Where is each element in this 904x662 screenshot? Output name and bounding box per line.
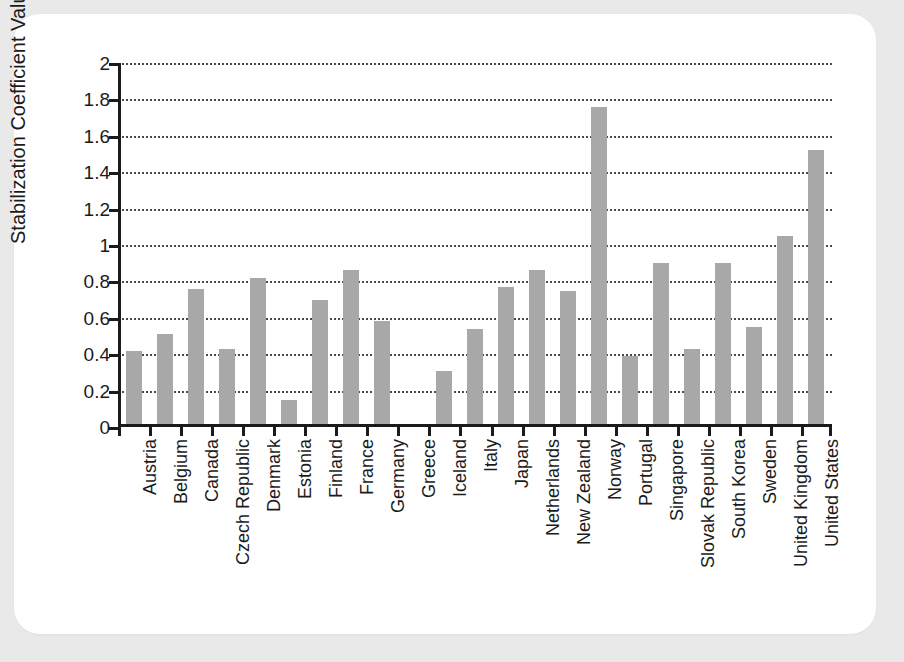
x-axis-labels: AustriaBelgiumCanadaCzech RepublicDenmar…: [118, 433, 832, 623]
x-axis-tick-label: South Korea: [730, 335, 748, 437]
y-axis-tick: [109, 63, 118, 66]
x-axis-tick-label: Finland: [327, 376, 345, 437]
y-axis-tick: [109, 172, 118, 175]
x-axis-tick-label-text: New Zealand: [575, 437, 593, 545]
y-axis-tick: [109, 427, 118, 430]
x-axis-tick-label-text: Slovak Republic: [699, 437, 717, 568]
x-axis-tick-label-text: Sweden: [761, 437, 779, 504]
x-axis-tick-label: Iceland: [451, 377, 469, 437]
x-axis-tick-label: Belgium: [172, 370, 190, 437]
y-axis-tick-label: 1.4: [84, 163, 110, 182]
y-axis-tick: [109, 354, 118, 357]
y-axis-tick-label: 1.2: [84, 199, 110, 218]
x-axis-tick-label-text: Belgium: [172, 437, 190, 504]
y-axis-tick-label: 0: [99, 418, 110, 437]
x-axis-tick-label: Portugal: [637, 368, 655, 437]
x-axis-tick-label: Estonia: [296, 375, 314, 437]
y-axis-tick: [109, 281, 118, 284]
x-axis-tick-label-text: Iceland: [451, 437, 469, 497]
x-axis-tick-label-text: Greece: [420, 437, 438, 498]
x-axis-tick-label-text: Portugal: [637, 437, 655, 506]
x-axis-tick-label-text: Singapore: [668, 437, 686, 521]
chart-card: Stabilization Coefficient Value 00.20.40…: [14, 14, 876, 634]
x-axis-tick-label: Germany: [389, 361, 407, 437]
x-axis-tick-label: France: [358, 379, 376, 437]
x-axis-tick-label-text: Finland: [327, 437, 345, 498]
x-axis-tick-label: Slovak Republic: [699, 306, 717, 437]
x-axis-tick-label: United States: [823, 327, 841, 437]
y-axis-tick-label: 2: [99, 54, 110, 73]
x-axis-tick-label-text: South Korea: [730, 437, 748, 539]
y-axis-tick: [109, 391, 118, 394]
y-axis-tick: [109, 99, 118, 102]
x-axis-tick-label: Japan: [513, 386, 531, 437]
y-axis-tick-label: 0.2: [84, 381, 110, 400]
x-axis-tick-label-text: Canada: [203, 437, 221, 502]
y-axis-tick-label: 0.8: [84, 272, 110, 291]
x-axis-tick-label: New Zealand: [575, 329, 593, 437]
x-axis-tick-label: Singapore: [668, 353, 686, 437]
x-axis-tick-label: Sweden: [761, 370, 779, 437]
x-axis-tick-label-text: France: [358, 437, 376, 495]
y-axis-tick: [109, 318, 118, 321]
x-axis-tick-label: Norway: [606, 374, 624, 437]
y-axis-tick-label: 1: [99, 236, 110, 255]
y-axis-tick: [109, 209, 118, 212]
x-axis-tick-label-text: Czech Republic: [234, 437, 252, 565]
x-axis-tick-label: Canada: [203, 372, 221, 437]
y-axis-tick-label: 0.6: [84, 308, 110, 327]
x-axis-tick-label-text: United States: [823, 437, 841, 547]
x-axis-tick-label: Czech Republic: [234, 309, 252, 437]
x-axis-tick-label-text: Netherlands: [544, 437, 562, 536]
x-axis-tick-label: United Kingdom: [792, 307, 810, 437]
y-axis-tick-label: 1.8: [84, 90, 110, 109]
x-axis-tick-label-text: United Kingdom: [792, 437, 810, 567]
x-axis-tick-label-text: Italy: [482, 437, 500, 472]
x-axis-tick-label: Austria: [141, 379, 159, 437]
x-axis-tick-label-text: Norway: [606, 437, 624, 500]
x-axis-tick-label-text: Japan: [513, 437, 531, 488]
x-axis-tick-label: Italy: [482, 402, 500, 437]
y-axis-tick-label: 1.6: [84, 126, 110, 145]
x-axis-tick-label-text: Germany: [389, 437, 407, 513]
x-axis-tick-label-text: Denmark: [265, 437, 283, 512]
axis-frame: [118, 63, 832, 427]
plot-area: 00.20.40.60.811.21.41.61.82: [118, 63, 832, 427]
y-axis-tick-label: 0.4: [84, 345, 110, 364]
x-axis-tick-label: Denmark: [265, 362, 283, 437]
x-axis-tick-label: Greece: [420, 376, 438, 437]
x-axis-tick-label-text: Estonia: [296, 437, 314, 499]
x-axis-tick-label: Netherlands: [544, 338, 562, 437]
x-axis-tick-label-text: Austria: [141, 437, 159, 495]
y-axis-tick: [109, 136, 118, 139]
y-axis-title: Stabilization Coefficient Value: [8, 0, 28, 244]
y-axis-tick: [109, 245, 118, 248]
